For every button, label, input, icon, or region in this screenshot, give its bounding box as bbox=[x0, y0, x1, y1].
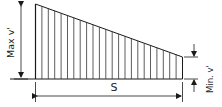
span-label: S bbox=[111, 81, 118, 94]
min-label: Min. v' bbox=[205, 65, 215, 93]
hatch-lines bbox=[42, 6, 176, 79]
distribution-diagram: Max v' Min. v' S bbox=[0, 0, 222, 107]
sloped-top-edge bbox=[36, 4, 183, 57]
min-dimension bbox=[184, 44, 198, 92]
max-label: Max v' bbox=[5, 27, 16, 58]
max-dimension bbox=[14, 6, 28, 79]
span-dimension bbox=[36, 82, 183, 102]
